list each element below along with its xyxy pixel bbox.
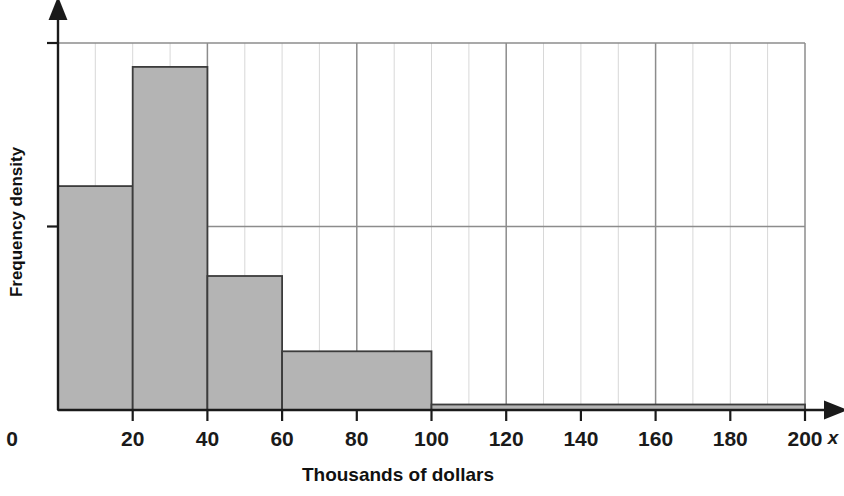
x-axis-variable-label: x bbox=[827, 427, 840, 448]
x-axis-title: Thousands of dollars bbox=[302, 464, 494, 485]
x-axis-tick-label: 60 bbox=[270, 427, 293, 450]
x-axis-ticks bbox=[133, 410, 805, 421]
chart-canvas: 020406080100120140160180200 x Thousands … bbox=[0, 0, 844, 496]
x-axis-tick-label: 140 bbox=[563, 427, 598, 450]
x-axis-tick-labels: 020406080100120140160180200 bbox=[6, 427, 822, 450]
histogram-bar bbox=[133, 67, 208, 410]
histogram-bar bbox=[58, 186, 133, 410]
histogram-bar bbox=[207, 276, 282, 410]
x-axis-tick-label: 120 bbox=[489, 427, 524, 450]
x-axis-tick-label: 160 bbox=[638, 427, 673, 450]
x-axis-tick-label: 180 bbox=[713, 427, 748, 450]
x-axis-tick-label: 80 bbox=[345, 427, 368, 450]
x-axis-tick-label: 100 bbox=[414, 427, 449, 450]
histogram-bar bbox=[282, 351, 431, 410]
y-axis-ticks bbox=[47, 43, 58, 227]
x-axis-tick-label: 0 bbox=[6, 427, 18, 450]
x-axis-tick-label: 20 bbox=[121, 427, 144, 450]
y-axis-title: Frequency density bbox=[7, 146, 26, 297]
histogram-figure: 020406080100120140160180200 x Thousands … bbox=[0, 0, 844, 496]
x-axis-tick-label: 200 bbox=[787, 427, 822, 450]
x-axis-tick-label: 40 bbox=[196, 427, 219, 450]
